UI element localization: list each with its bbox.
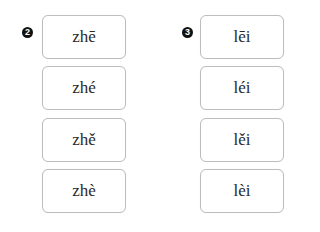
number-badge: 2	[22, 27, 33, 38]
pinyin-option-card[interactable]: zhè	[42, 169, 126, 213]
pinyin-option-card[interactable]: zhě	[42, 118, 126, 162]
number-badge: 3	[182, 27, 193, 38]
pinyin-option-card[interactable]: léi	[200, 66, 284, 110]
pinyin-option-card[interactable]: lēi	[200, 15, 284, 59]
pinyin-option-card[interactable]: zhē	[42, 15, 126, 59]
pinyin-option-card[interactable]: lèi	[200, 169, 284, 213]
pinyin-option-card[interactable]: zhé	[42, 66, 126, 110]
pinyin-option-card[interactable]: lěi	[200, 118, 284, 162]
